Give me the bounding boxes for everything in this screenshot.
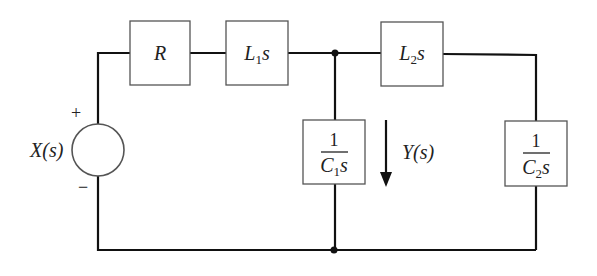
inductor-l1: L1s [226,21,288,85]
junction-bottom [331,247,338,254]
output-label: Y(s) [402,141,435,164]
inductor-l2: L2s [381,22,443,86]
wire-l2-right [443,54,536,121]
output-current: Y(s) [380,120,435,187]
wire-left-top [98,53,130,124]
source-plus: + [71,103,81,123]
voltage-source: + − X(s) [29,103,124,197]
wire-bottom [98,176,536,250]
capacitor-c1: 1 C1s [303,120,365,184]
capacitor-c2-numerator: 1 [532,131,541,151]
source-circle-icon [72,124,124,176]
junction-top [332,50,339,57]
source-minus: − [78,177,88,197]
resistor-r: R [130,21,190,85]
circuit-diagram: + − X(s) R L1s L2s 1 C1s 1 C2s Y(s) [0,0,597,276]
resistor-label: R [153,42,166,64]
capacitor-c2: 1 C2s [505,121,567,186]
arrowhead-icon [380,172,392,187]
source-label: X(s) [29,139,64,162]
capacitor-c1-numerator: 1 [330,130,339,150]
